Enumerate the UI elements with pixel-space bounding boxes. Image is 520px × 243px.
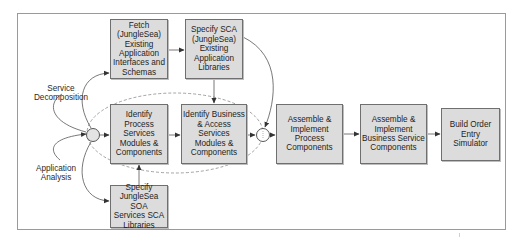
specify-sca-box: Specify SCA (JungleSea) Existing Applica…	[185, 19, 243, 79]
box-line: Existing	[113, 40, 165, 49]
box-line: Schemas	[113, 68, 165, 77]
service-decomposition-label: Service Decomposition	[22, 84, 100, 103]
box-line: Specify SCA	[191, 25, 237, 34]
box-line: Assemble &	[362, 115, 425, 124]
application-analysis-label: Application Analysis	[30, 164, 82, 183]
box-line: Build Order	[450, 120, 491, 129]
box-line: Components	[362, 143, 425, 152]
box-line: Specify	[112, 183, 166, 192]
box-line: Interfaces and	[113, 58, 165, 67]
box-line: Libraries	[112, 221, 166, 230]
box-line: Implement	[286, 125, 332, 134]
identify-business-box: Identify Business & Access Services Modu…	[181, 104, 247, 164]
stray-mark	[459, 233, 460, 237]
assemble-process-box: Assemble & Implement Process Components	[276, 104, 343, 164]
box-line: Fetch	[113, 21, 165, 30]
box-line: Modules &	[183, 139, 245, 148]
box-line: Components	[112, 148, 166, 157]
box-line: (JungleSea)	[191, 35, 237, 44]
box-line: Assemble &	[286, 115, 332, 124]
identify-process-box: Identify Process Services Modules & Comp…	[110, 104, 168, 164]
build-order-box: Build Order Entry Simulator	[441, 108, 500, 161]
box-line: Identify Business	[183, 110, 245, 119]
box-line: Process	[286, 134, 332, 143]
box-line: Existing	[191, 44, 237, 53]
box-line: Application	[113, 49, 165, 58]
box-line: Application	[191, 54, 237, 63]
box-line: Components	[183, 148, 245, 157]
box-line: Implement	[362, 125, 425, 134]
box-line: Services SCA	[112, 211, 166, 220]
diagram-frame	[17, 13, 506, 230]
box-line: Business Service	[362, 134, 425, 143]
service-decomposition-text: Service Decomposition	[34, 84, 88, 102]
box-line: Modules &	[112, 139, 166, 148]
specify-junglesea-box: Specify JungleSea SOA Services SCA Libra…	[110, 185, 168, 228]
box-line: Services	[112, 129, 166, 138]
box-line: Services	[183, 129, 245, 138]
box-line: Entry	[450, 130, 491, 139]
diagram-canvas: Service Decomposition Application Analys…	[0, 0, 520, 243]
application-analysis-line1: Application	[30, 164, 82, 173]
box-line: Simulator	[450, 139, 491, 148]
box-line: & Access	[183, 120, 245, 129]
box-line: JungleSea SOA	[112, 192, 166, 211]
box-line: (JungleSea)	[113, 30, 165, 39]
box-line: Libraries	[191, 63, 237, 72]
box-line: Components	[286, 143, 332, 152]
application-analysis-line2: Analysis	[30, 173, 82, 182]
assemble-business-box: Assemble & Implement Business Service Co…	[360, 104, 427, 164]
box-line: Identify Process	[112, 110, 166, 129]
fetch-box: Fetch (JungleSea) Existing Application I…	[110, 19, 168, 79]
